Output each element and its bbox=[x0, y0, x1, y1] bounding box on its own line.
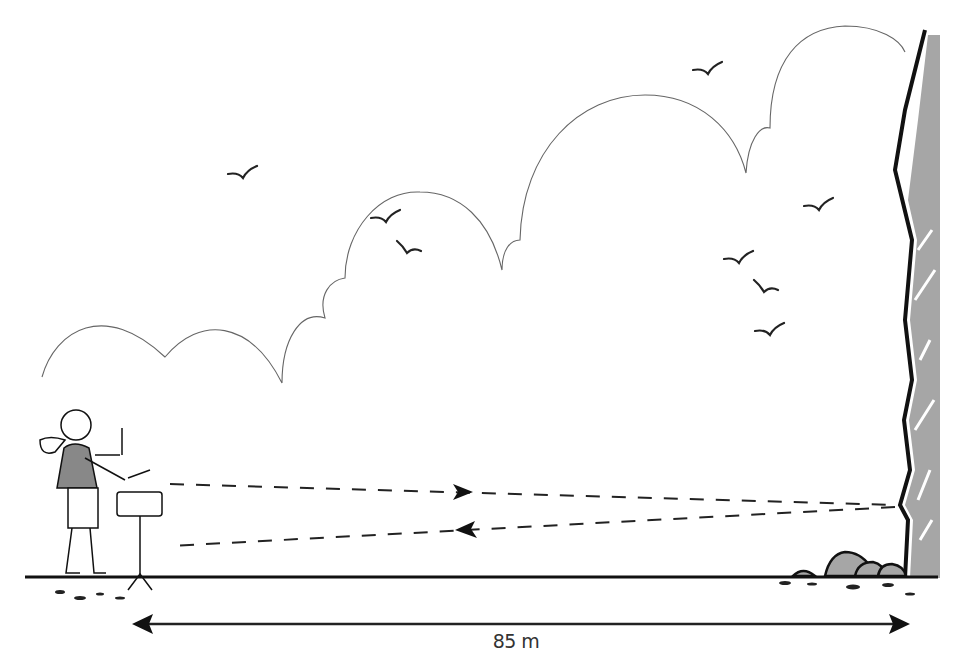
bird-icon bbox=[693, 62, 722, 74]
sound-path-outgoing bbox=[170, 484, 895, 505]
cloud-outline bbox=[42, 26, 905, 383]
rocks bbox=[793, 552, 906, 576]
cliff bbox=[895, 30, 962, 578]
snare-drum bbox=[117, 492, 162, 590]
drumstick bbox=[128, 470, 150, 478]
jacket bbox=[57, 444, 97, 488]
shorts bbox=[68, 488, 98, 528]
bird-icon bbox=[804, 198, 833, 210]
ground-specks bbox=[55, 581, 915, 600]
legs bbox=[66, 528, 106, 573]
bird-icon bbox=[397, 241, 421, 253]
bird-icon bbox=[754, 280, 778, 292]
sound-path-return bbox=[170, 507, 895, 546]
head bbox=[61, 410, 91, 440]
bird-icon bbox=[371, 210, 400, 222]
bird-icon bbox=[724, 251, 753, 263]
distance-label: 85 m bbox=[486, 630, 546, 652]
bird-icon bbox=[755, 323, 784, 335]
echo-diagram bbox=[0, 0, 962, 671]
scarf bbox=[40, 438, 65, 454]
bird-icon bbox=[228, 166, 257, 178]
birds bbox=[228, 62, 833, 335]
